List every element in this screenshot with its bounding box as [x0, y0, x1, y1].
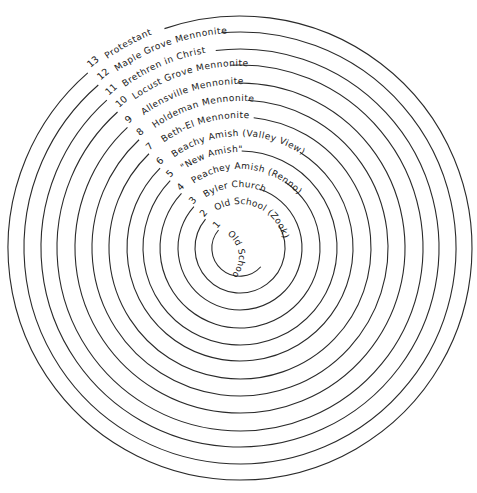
ring-number-9: 9	[122, 113, 134, 125]
ring-number-6: 6	[154, 155, 166, 167]
ring-number-5: 5	[163, 168, 175, 180]
labels-group: Old School (Yoder)1Old School (Zook)2Byl…	[0, 0, 419, 280]
ring-label-6: Beachy Amish (Valley View)	[170, 128, 308, 159]
svg-text:Beachy Amish (Valley View): Beachy Amish (Valley View)	[170, 128, 308, 159]
ring-number-11: 11	[103, 81, 119, 97]
ring-number-1: 1	[210, 219, 222, 231]
concentric-church-diagram: Old School (Yoder)1Old School (Zook)2Byl…	[0, 0, 477, 493]
ring-number-3: 3	[186, 194, 198, 206]
ring-number-7: 7	[143, 140, 155, 152]
ring-number-2: 2	[197, 207, 209, 219]
svg-text:Old School (Zook): Old School (Zook)	[212, 196, 290, 240]
ring-number-4: 4	[174, 181, 186, 193]
ring-number-8: 8	[134, 126, 146, 138]
ring-label-2: Old School (Zook)	[212, 196, 290, 240]
ring-number-12: 12	[95, 66, 111, 82]
ring-number-10: 10	[113, 93, 129, 109]
ring-number-13: 13	[84, 53, 100, 69]
